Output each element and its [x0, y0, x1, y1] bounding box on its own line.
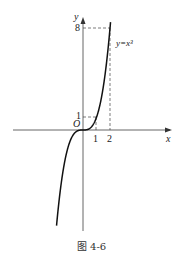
- figure-caption: 图 4-6: [0, 238, 183, 253]
- x-axis-label: x: [166, 134, 170, 144]
- x-axis-arrow-icon: [165, 128, 172, 133]
- cubic-function-plot: [0, 0, 183, 255]
- x-tick-2: 2: [107, 134, 112, 144]
- curve-label: y=x³: [116, 38, 133, 48]
- y-axis-label: y: [74, 12, 78, 22]
- origin-label: O: [73, 119, 80, 129]
- guide-lines: [83, 28, 110, 130]
- y-tick-8: 8: [75, 23, 80, 33]
- cubic-curve: [57, 22, 111, 225]
- y-axis-arrow-icon: [81, 17, 86, 24]
- x-tick-1: 1: [93, 134, 98, 144]
